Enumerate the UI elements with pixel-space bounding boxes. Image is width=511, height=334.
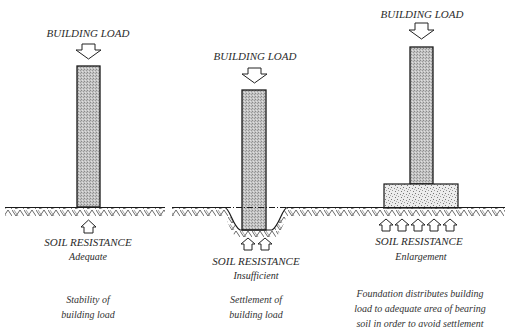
spread-footing <box>384 184 458 208</box>
caption-line: building load <box>229 309 284 320</box>
up-arrow-icon <box>241 238 255 250</box>
down-arrow-icon <box>76 44 101 59</box>
building-column <box>242 90 266 230</box>
up-arrow-icon <box>443 219 457 231</box>
building-load-label: BUILDING LOAD <box>381 8 464 20</box>
caption-line: soil in order to avoid settlement <box>356 318 483 329</box>
soil-hatch <box>340 208 505 216</box>
up-arrow-icon <box>395 219 409 231</box>
up-arrow-icon <box>258 238 272 250</box>
up-arrow-icon <box>427 219 441 231</box>
caption-line: Stability of <box>66 294 111 305</box>
up-arrow-icon <box>411 219 425 231</box>
up-arrow-icon <box>81 220 96 233</box>
resistance-state: Adequate <box>68 251 107 262</box>
building-load-label: BUILDING LOAD <box>214 50 297 62</box>
soil-resistance-label: SOIL RESISTANCE <box>212 255 300 267</box>
up-arrow-row <box>379 219 457 231</box>
down-arrow-icon <box>242 68 267 83</box>
up-arrow-icon <box>379 219 393 231</box>
caption-line: load to adequate area of bearing <box>354 303 486 314</box>
caption-line: building load <box>61 309 116 320</box>
resistance-state: Enlargement <box>394 251 447 262</box>
building-load-label: BUILDING LOAD <box>47 27 130 39</box>
panel-stability: BUILDING LOAD SOIL RESISTANCE Adequate S… <box>5 27 165 320</box>
soil-resistance-label: SOIL RESISTANCE <box>44 236 132 248</box>
caption-line: Foundation distributes building <box>355 288 483 299</box>
panel-enlargement: BUILDING LOAD SOIL RESISTANCE Enlargemen… <box>340 8 505 329</box>
building-column <box>77 66 100 207</box>
building-column <box>410 47 433 184</box>
resistance-state: Insufficient <box>233 270 279 281</box>
foundation-diagram: BUILDING LOAD SOIL RESISTANCE Adequate S… <box>0 0 511 334</box>
down-arrow-icon <box>409 23 434 39</box>
caption-line: Settlement of <box>230 294 283 305</box>
panel-settlement: BUILDING LOAD SOIL RESISTANCE Insufficie… <box>172 50 340 320</box>
soil-hatch <box>5 208 165 216</box>
soil-resistance-label: SOIL RESISTANCE <box>375 235 463 247</box>
